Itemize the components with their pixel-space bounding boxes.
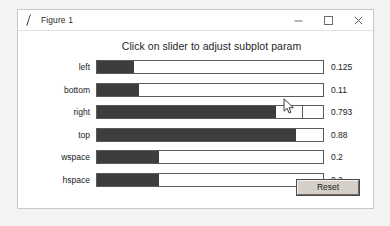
slider-track-hspace[interactable] (96, 173, 324, 187)
figure-title-row: Click on slider to adjust subplot param (18, 40, 373, 52)
slider-label-bottom: bottom (18, 86, 96, 95)
slider-track-wspace[interactable] (96, 150, 324, 164)
slider-label-right: right (18, 108, 96, 117)
minimize-button[interactable] (283, 10, 313, 30)
window-titlebar: Figure 1 (18, 10, 373, 31)
slider-value-top: 0.88 (324, 131, 348, 140)
slider-label-wspace: wspace (18, 153, 96, 162)
slider-track-left[interactable] (96, 60, 324, 74)
slider-fill-wspace (97, 151, 159, 163)
window-controls (283, 10, 373, 30)
reset-button-wrapper: Reset (297, 176, 359, 196)
slider-label-left: left (18, 63, 96, 72)
slider-label-top: top (18, 131, 96, 140)
slider-label-hspace: hspace (18, 176, 96, 185)
figure-title: Click on slider to adjust subplot param (122, 40, 301, 52)
slider-fill-hspace (97, 174, 159, 186)
slider-tick-right (302, 106, 303, 118)
screenshot-root: Figure 1 (0, 0, 390, 226)
slider-track-bottom[interactable] (96, 83, 324, 97)
slider-row-wspace: wspace 0.2 (18, 146, 373, 169)
figure-window: Figure 1 (17, 9, 374, 209)
slider-value-bottom: 0.11 (324, 86, 347, 95)
slider-row-right: right 0.793 (18, 101, 373, 124)
slider-value-wspace: 0.2 (324, 153, 343, 162)
slider-row-left: left 0.125 (18, 56, 373, 79)
slider-fill-top (97, 129, 296, 141)
maximize-button[interactable] (313, 10, 343, 30)
slider-fill-right (97, 106, 276, 118)
slider-value-right: 0.793 (324, 108, 352, 117)
slider-row-bottom: bottom 0.11 (18, 79, 373, 102)
titlebar-left-group: Figure 1 (18, 14, 283, 26)
slider-row-top: top 0.88 (18, 124, 373, 147)
slider-track-right[interactable] (96, 105, 324, 119)
slider-track-top[interactable] (96, 128, 324, 142)
close-button[interactable] (343, 10, 373, 30)
window-title: Figure 1 (41, 16, 73, 25)
slider-value-left: 0.125 (324, 63, 352, 72)
matplotlib-figure-icon (24, 14, 35, 26)
slider-fill-left (97, 61, 134, 73)
reset-button[interactable]: Reset (297, 180, 359, 196)
slider-fill-bottom (97, 84, 139, 96)
figure-canvas: Click on slider to adjust subplot param … (18, 31, 373, 208)
slider-list: left 0.125 bottom 0.11 right (18, 56, 373, 191)
